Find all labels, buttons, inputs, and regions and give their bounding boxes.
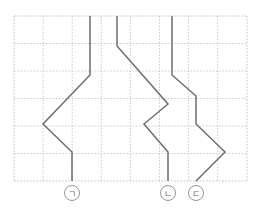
grid-lines [14,16,247,181]
label-group: ㄱ ㄴ ㄷ [65,186,204,201]
label-text-giyeok: ㄱ [68,189,76,199]
label-nieun: ㄴ [161,186,176,201]
figure-container: ㄱ ㄴ ㄷ [0,0,261,211]
label-giyeok: ㄱ [65,186,80,201]
label-text-digeut: ㄷ [192,189,200,199]
label-text-nieun: ㄴ [164,189,172,199]
label-digeut: ㄷ [189,186,204,201]
grid-path-diagram: ㄱ ㄴ ㄷ [0,0,261,211]
